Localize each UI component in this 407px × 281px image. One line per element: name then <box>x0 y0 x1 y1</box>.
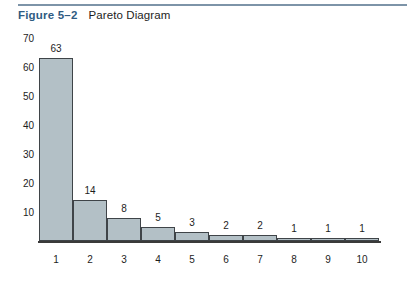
bar-value-label: 14 <box>73 185 107 196</box>
x-axis-tick-label: 1 <box>39 254 73 265</box>
figure-container: Figure 5–2 Pareto Diagram 10203040506070… <box>0 0 407 281</box>
x-axis-line <box>38 241 381 243</box>
x-axis-tick-label: 5 <box>175 254 209 265</box>
bar-value-label: 1 <box>277 223 311 234</box>
y-axis-tick-label: 70 <box>12 33 34 44</box>
y-axis-tick-label: 10 <box>12 207 34 218</box>
bar-value-label: 5 <box>141 212 175 223</box>
bar[interactable] <box>311 238 345 241</box>
bar-value-label: 1 <box>345 223 379 234</box>
bar[interactable] <box>175 232 209 241</box>
x-axis-tick-label: 3 <box>107 254 141 265</box>
pareto-chart: 1020304050607063114283543526271819110 <box>0 0 407 281</box>
bar-value-label: 1 <box>311 223 345 234</box>
y-axis-tick-label: 30 <box>12 149 34 160</box>
x-axis-tick-label: 6 <box>209 254 243 265</box>
x-axis-tick-label: 7 <box>243 254 277 265</box>
y-axis-tick-label: 20 <box>12 178 34 189</box>
bar[interactable] <box>209 235 243 241</box>
bar[interactable] <box>73 200 107 241</box>
bar[interactable] <box>345 238 379 241</box>
x-axis-tick-label: 2 <box>73 254 107 265</box>
y-axis-tick-label: 60 <box>12 62 34 73</box>
x-axis-tick-label: 10 <box>345 254 379 265</box>
bar[interactable] <box>243 235 277 241</box>
y-axis-tick-label: 40 <box>12 120 34 131</box>
x-axis-tick-label: 8 <box>277 254 311 265</box>
bar-value-label: 2 <box>209 220 243 231</box>
bar-value-label: 63 <box>39 43 73 54</box>
bar[interactable] <box>141 227 175 242</box>
bar-value-label: 3 <box>175 217 209 228</box>
bar[interactable] <box>107 218 141 241</box>
x-axis-tick-label: 4 <box>141 254 175 265</box>
bar-value-label: 8 <box>107 203 141 214</box>
bar-value-label: 2 <box>243 220 277 231</box>
bar[interactable] <box>39 58 73 241</box>
y-axis-tick-label: 50 <box>12 91 34 102</box>
x-axis-tick-label: 9 <box>311 254 345 265</box>
bar[interactable] <box>277 238 311 241</box>
